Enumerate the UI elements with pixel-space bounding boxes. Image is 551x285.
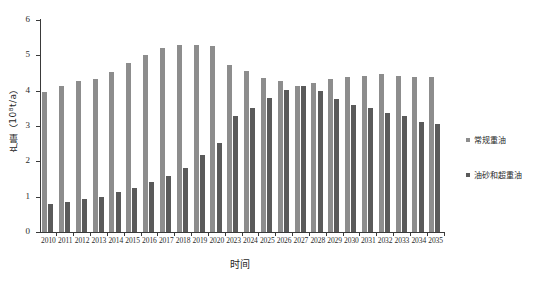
bar-conventional	[429, 77, 434, 232]
bar-conventional	[345, 77, 350, 232]
bar-conventional	[143, 55, 148, 232]
bar-oilsands	[334, 99, 339, 232]
bar-conventional	[311, 83, 316, 232]
bar-oilsands	[318, 91, 323, 232]
y-axis-tick-label: 4	[16, 85, 30, 95]
bar-conventional	[295, 86, 300, 232]
y-axis-tick-label: 3	[16, 120, 30, 130]
legend-label: 油砂和超重油	[474, 169, 522, 180]
bar-conventional	[210, 46, 215, 232]
bar-conventional	[278, 81, 283, 232]
bar-conventional	[93, 79, 98, 232]
bar-oilsands	[301, 86, 306, 232]
bar-oilsands	[116, 192, 121, 232]
y-axis-tick-label: 2	[16, 155, 30, 165]
y-axis-tick-label: 5	[16, 49, 30, 59]
bar-conventional	[194, 45, 199, 232]
y-axis-tick-label: 1	[16, 191, 30, 201]
bar-conventional	[227, 65, 232, 232]
bar-oilsands	[132, 188, 137, 232]
bar-oilsands	[351, 105, 356, 232]
bar-conventional	[379, 74, 384, 232]
legend-swatch-icon	[466, 138, 470, 142]
chart-figure: 产量（10⁸t/a） 0123456 201020112012201320142…	[0, 0, 551, 285]
x-axis-line	[40, 232, 445, 233]
bar-oilsands	[183, 168, 188, 232]
bar-conventional	[160, 48, 165, 232]
y-axis-tick	[36, 232, 41, 233]
bar-conventional	[42, 92, 47, 232]
bar-conventional	[126, 63, 131, 232]
x-axis-tick-labels: 2010201120122013201420152016201720182019…	[40, 236, 445, 250]
bar-oilsands	[402, 116, 407, 232]
plot-area	[40, 20, 444, 232]
bar-conventional	[328, 79, 333, 232]
x-axis-tick-label: 2035	[425, 236, 447, 245]
bar-oilsands	[284, 90, 289, 232]
y-axis-tick-label: 6	[16, 14, 30, 24]
bar-conventional	[412, 77, 417, 232]
bar-conventional	[109, 72, 114, 232]
bar-oilsands	[419, 122, 424, 232]
bar-oilsands	[435, 124, 440, 232]
bar-oilsands	[149, 182, 154, 232]
bar-oilsands	[65, 202, 70, 232]
bar-conventional	[362, 76, 367, 232]
y-axis-tick-label: 0	[16, 226, 30, 236]
legend-label: 常规重油	[474, 134, 506, 145]
legend-swatch-icon	[466, 173, 470, 177]
bar-oilsands	[267, 98, 272, 232]
legend-item-oilsands: 油砂和超重油	[466, 169, 551, 180]
x-axis-title: 时间	[0, 256, 480, 271]
bar-series-container	[40, 20, 444, 232]
bar-oilsands	[217, 143, 222, 232]
legend-item-conventional: 常规重油	[466, 134, 551, 145]
bar-oilsands	[99, 197, 104, 232]
chart-legend: 常规重油 油砂和超重油	[466, 134, 551, 204]
bar-oilsands	[48, 204, 53, 232]
bar-oilsands	[368, 108, 373, 232]
bar-conventional	[59, 86, 64, 232]
bar-conventional	[244, 71, 249, 232]
bar-oilsands	[82, 199, 87, 232]
bar-conventional	[177, 45, 182, 232]
bar-oilsands	[233, 116, 238, 232]
bar-oilsands	[250, 108, 255, 232]
bar-oilsands	[200, 155, 205, 232]
bar-oilsands	[166, 176, 171, 232]
bar-conventional	[261, 78, 266, 232]
bar-conventional	[396, 76, 401, 232]
bar-conventional	[76, 81, 81, 232]
bar-oilsands	[385, 113, 390, 232]
